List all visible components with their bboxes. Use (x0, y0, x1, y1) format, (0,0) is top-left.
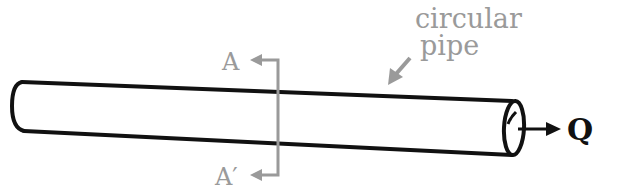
section-label-a: A (221, 48, 240, 76)
section-cut-line (250, 54, 278, 181)
flow-label-q: Q (567, 112, 593, 147)
pipe-label-line2: pipe (420, 30, 479, 61)
circular-pipe (12, 82, 525, 155)
pipe-diagram: Q A A′ circular pipe (0, 0, 617, 189)
pipe-pointer-arrow (388, 58, 410, 85)
section-label-a-prime: A′ (214, 163, 238, 189)
